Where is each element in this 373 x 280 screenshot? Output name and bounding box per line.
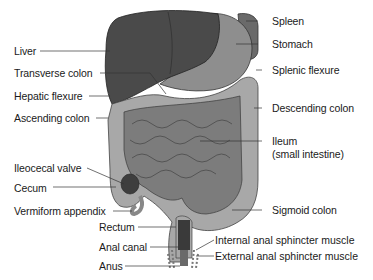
label-splenic-flexure: Splenic flexure [272, 64, 339, 76]
label-sigmoid-colon: Sigmoid colon [272, 204, 337, 216]
label-cecum: Cecum [14, 182, 47, 194]
label-stomach: Stomach [272, 38, 313, 50]
label-transverse-colon: Transverse colon [14, 67, 93, 79]
label-descending-colon: Descending colon [272, 102, 354, 114]
label-vermiform-appendix: Vermiform appendix [14, 205, 106, 217]
label-hepatic-flexure: Hepatic flexure [14, 90, 83, 102]
label-spleen: Spleen [272, 15, 304, 27]
label-anal-canal: Anal canal [99, 241, 147, 253]
label-external-anal-sphincter: External anal sphincter muscle [215, 250, 358, 262]
label-liver: Liver [14, 45, 36, 57]
label-rectum: Rectum [99, 221, 135, 233]
label-ileum: Ileum [272, 135, 297, 147]
anal-canal-shape [180, 250, 188, 266]
label-ileocecal-valve: Ileocecal valve [14, 162, 81, 174]
label-small-intestine: (small intestine) [272, 148, 344, 160]
label-anus: Anus [99, 260, 123, 272]
rectum-inner [178, 220, 190, 250]
label-ascending-colon: Ascending colon [14, 112, 90, 124]
label-internal-anal-sphincter: Internal anal sphincter muscle [215, 234, 355, 246]
